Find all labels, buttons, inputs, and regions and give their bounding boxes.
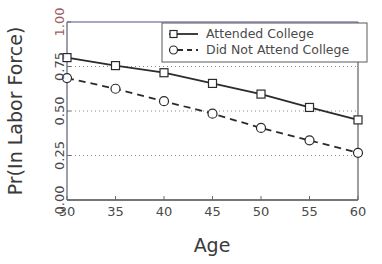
x-tick-label-40: 40 (156, 204, 173, 219)
data-point (112, 62, 120, 70)
x-tick-label-55: 55 (301, 204, 318, 219)
legend-label-did-not-attend-college: Did Not Attend College (206, 42, 349, 57)
x-tick-label-60: 60 (350, 204, 367, 219)
data-point (257, 123, 266, 132)
x-axis-title: Age (194, 234, 231, 256)
y-tick-label-0.50: 0.50 (52, 97, 67, 126)
chart-figure: 30354045505560 0.000.250.500.751.00 Age … (0, 0, 382, 264)
data-point (111, 84, 120, 93)
y-tick-label-1.00: 1.00 (52, 8, 67, 37)
data-point (209, 79, 217, 87)
y-tick-label-0.00: 0.00 (52, 186, 67, 215)
data-point (354, 116, 362, 124)
data-point (257, 90, 265, 98)
data-point (305, 136, 314, 145)
chart-legend: Attended College Did Not Attend College (162, 23, 367, 62)
line-chart: 30354045505560 0.000.250.500.751.00 Age … (0, 0, 382, 264)
x-tick-label-50: 50 (253, 204, 270, 219)
data-point (354, 148, 363, 157)
y-tick-label-0.75: 0.75 (52, 52, 67, 81)
legend-label-attended-college: Attended College (206, 26, 314, 41)
data-point (306, 103, 314, 111)
y-tick-label-0.25: 0.25 (52, 141, 67, 170)
x-tick-label-35: 35 (107, 204, 124, 219)
x-tick-label-45: 45 (204, 204, 221, 219)
square-marker-icon (170, 31, 177, 38)
y-axis-title: Pr(In Labor Force) (4, 27, 26, 196)
circle-marker-icon (170, 46, 178, 54)
data-point (208, 109, 217, 118)
data-point (160, 69, 168, 77)
data-point (160, 97, 169, 106)
